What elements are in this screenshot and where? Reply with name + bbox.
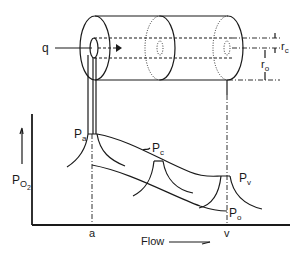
radius-tissue-label: ro: [261, 58, 270, 73]
label-Pc: Pc: [152, 141, 164, 157]
tissue-edge-po2-curve: [92, 165, 227, 211]
flow-label-q: q: [42, 41, 49, 55]
arrow-head-icon: [116, 44, 122, 52]
label-Po: Po: [229, 206, 242, 222]
x-tick-v: v: [224, 227, 230, 239]
x-axis-label: Flow: [141, 235, 164, 247]
x-tick-a: a: [89, 227, 96, 239]
krogh-cylinder-diagram: q rc ro PO2: [0, 0, 303, 253]
radius-capillary-label: rc: [281, 40, 289, 55]
tissue-cylinder: q rc ro: [42, 16, 289, 134]
y-axis-label: PO2: [12, 173, 31, 191]
po2-flow-graph: PO2 Pa Pc Pv Po a v Flow: [12, 95, 290, 247]
label-Pv: Pv: [239, 171, 251, 187]
cylinder-mid-section: [160, 16, 175, 80]
label-Pa: Pa: [74, 127, 87, 143]
